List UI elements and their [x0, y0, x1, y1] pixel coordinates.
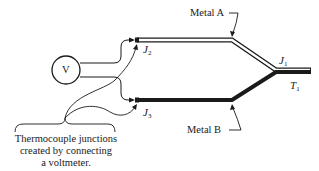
pointer-to-j3 [65, 106, 135, 118]
pointer-j2-arrowhead [133, 44, 138, 50]
arrowhead-j2 [129, 38, 135, 43]
temperature-t1-label: T1 [290, 80, 300, 93]
j2-sub: 2 [148, 49, 152, 57]
metal-b-leader [229, 108, 241, 130]
junction-j2-label: J2 [143, 44, 151, 57]
wire-lower [80, 77, 133, 100]
j1-sub: 1 [284, 60, 288, 68]
metal-b-label: Metal B [187, 125, 221, 136]
wire-upper [80, 40, 133, 63]
t1-sub: 1 [296, 85, 300, 93]
metal-a-leader [229, 13, 238, 33]
pointer-j3-arrowhead [132, 104, 137, 110]
j3-sub: 3 [148, 112, 152, 120]
metal-a-arrowhead [230, 31, 235, 37]
junction-j2-dot [135, 38, 139, 43]
junction-j1-label: J1 [279, 55, 287, 68]
metal-b-arrowhead [230, 104, 235, 110]
metal-a-label: Metal A [190, 8, 224, 19]
junction-j3-label: J3 [143, 107, 151, 120]
junction-j3-dot [135, 98, 139, 103]
caption-brace [15, 118, 115, 132]
arrowhead-j3 [129, 98, 135, 103]
metal-b [137, 72, 311, 100]
caption-line-1: Thermocouple junctions [4, 133, 128, 145]
caption-line-3: a voltmeter. [4, 157, 128, 169]
voltmeter-label: V [62, 65, 70, 76]
caption-text: Thermocouple junctions created by connec… [4, 133, 128, 169]
caption-line-2: created by connecting [4, 145, 128, 157]
